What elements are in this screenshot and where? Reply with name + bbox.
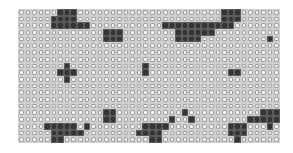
grid-cell-empty[interactable] [273,136,280,143]
grid-cell-filled[interactable] [273,109,280,116]
grid-cell-empty[interactable] [273,42,280,49]
grid-cell-filled[interactable] [273,116,280,123]
grid-cell-empty[interactable] [273,123,280,130]
grid-cell-empty[interactable] [273,130,280,137]
grid-cell-empty[interactable] [273,56,280,63]
grid-cell-empty[interactable] [273,16,280,23]
grid-cell-empty[interactable] [273,22,280,29]
grid-cell-empty[interactable] [273,103,280,110]
grid-cell-empty[interactable] [273,69,280,76]
grid-cell-empty[interactable] [273,29,280,36]
grid-cell-empty[interactable] [273,9,280,16]
grid-cell-empty[interactable] [273,89,280,96]
grid-cell-empty[interactable] [273,83,280,90]
grid-cell-empty[interactable] [273,96,280,103]
grid-cell-empty[interactable] [273,49,280,56]
grid-cell-empty[interactable] [273,36,280,43]
bead-grid-board[interactable] [18,9,280,143]
grid-cell-empty[interactable] [273,76,280,83]
grid-cell-empty[interactable] [273,63,280,70]
